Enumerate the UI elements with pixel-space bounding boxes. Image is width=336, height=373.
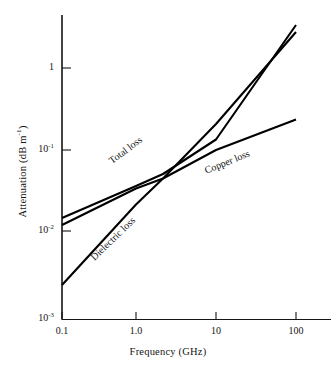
series-line-copper-loss — [62, 120, 296, 226]
y-tick-exp-1e-2: -2 — [48, 223, 54, 230]
y-tick-exp-1e-1: -1 — [48, 142, 54, 149]
series-line-total-loss — [62, 25, 296, 218]
attenuation-vs-frequency-chart: 1 10-1 10-2 10-3 0.1 1.0 10 100 Frequenc… — [0, 0, 336, 373]
y-tick-label-1e-3: 10-3 — [14, 312, 54, 323]
y-axis-title-exponent: -1 — [15, 129, 23, 135]
y-axis-title-text: Attenuation (dB m — [17, 135, 28, 217]
x-tick-label-1.0: 1.0 — [116, 325, 156, 336]
x-tick-label-10: 10 — [196, 325, 236, 336]
x-axis-title: Frequency (GHz) — [0, 346, 336, 357]
y-tick-label-1: 1 — [14, 61, 54, 72]
y-tick-exp-1e-3: -3 — [48, 311, 54, 318]
x-tick-label-0.1: 0.1 — [42, 325, 82, 336]
y-axis-title-paren: ) — [17, 125, 28, 129]
x-tick-label-100: 100 — [276, 325, 316, 336]
y-axis-title: Attenuation (dB m-1) — [17, 72, 28, 272]
